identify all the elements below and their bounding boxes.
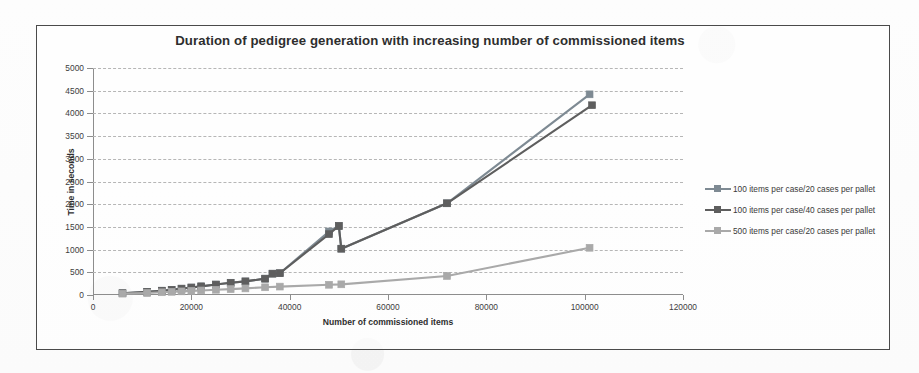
series-layer bbox=[93, 68, 683, 295]
data-point-marker bbox=[242, 278, 249, 285]
x-tick-label: 20000 bbox=[180, 302, 203, 312]
x-tick-label: 60000 bbox=[376, 302, 399, 312]
y-tick-label: 4500 bbox=[65, 86, 84, 96]
data-point-marker bbox=[335, 223, 342, 230]
data-point-marker bbox=[326, 231, 333, 238]
x-tick bbox=[191, 295, 192, 300]
legend-item-2[interactable]: 100 items per case/40 cases per pallet bbox=[705, 199, 885, 220]
series-1 bbox=[119, 91, 593, 297]
data-point-marker bbox=[262, 284, 269, 291]
legend-label: 100 items per case/20 cases per pallet bbox=[733, 184, 875, 194]
series-line bbox=[123, 105, 593, 293]
data-point-marker bbox=[589, 102, 596, 109]
legend-label: 100 items per case/40 cases per pallet bbox=[733, 205, 875, 215]
series-3 bbox=[119, 244, 593, 297]
x-tick-label: 80000 bbox=[475, 302, 498, 312]
data-point-marker bbox=[242, 285, 249, 292]
data-point-marker bbox=[227, 279, 234, 286]
x-tick-label: 40000 bbox=[278, 302, 301, 312]
data-point-marker bbox=[198, 287, 205, 294]
x-tick-label: 100000 bbox=[571, 302, 599, 312]
plot-area: 0500100015002000250030003500400045005000… bbox=[93, 68, 683, 295]
data-point-marker bbox=[276, 270, 283, 277]
x-tick bbox=[290, 295, 291, 300]
data-point-marker bbox=[444, 273, 451, 280]
data-point-marker bbox=[213, 286, 220, 293]
marker-square-icon bbox=[705, 205, 731, 215]
x-axis-title: Number of commissioned items bbox=[93, 317, 683, 327]
legend-item-1[interactable]: 100 items per case/20 cases per pallet bbox=[705, 178, 885, 199]
data-point-marker bbox=[586, 244, 593, 251]
data-point-marker bbox=[338, 245, 345, 252]
data-point-marker bbox=[119, 290, 126, 297]
x-tick-label: 120000 bbox=[669, 302, 697, 312]
x-tick bbox=[585, 295, 586, 300]
y-tick-label: 4000 bbox=[65, 108, 84, 118]
y-tick-label: 0 bbox=[79, 290, 84, 300]
data-point-marker bbox=[178, 288, 185, 295]
data-point-marker bbox=[269, 270, 276, 277]
y-axis-title: Time in seconds bbox=[66, 148, 76, 215]
legend-label: 500 items per case/20 cases per pallet bbox=[733, 226, 875, 236]
y-tick-label: 500 bbox=[70, 267, 84, 277]
x-tick bbox=[388, 295, 389, 300]
data-point-marker bbox=[444, 200, 451, 207]
data-point-marker bbox=[144, 290, 151, 297]
data-point-marker bbox=[338, 281, 345, 288]
data-point-marker bbox=[227, 286, 234, 293]
y-tick-label: 5000 bbox=[65, 63, 84, 73]
x-tick bbox=[93, 295, 94, 300]
series-2 bbox=[119, 102, 595, 297]
data-point-marker bbox=[276, 283, 283, 290]
chart-legend: 100 items per case/20 cases per pallet10… bbox=[705, 178, 885, 241]
y-tick-label: 1000 bbox=[65, 245, 84, 255]
data-point-marker bbox=[188, 288, 195, 295]
data-point-marker bbox=[168, 288, 175, 295]
x-tick-label: 0 bbox=[91, 302, 96, 312]
data-point-marker bbox=[262, 275, 269, 282]
y-tick-label: 1500 bbox=[65, 222, 84, 232]
data-point-marker bbox=[326, 281, 333, 288]
marker-square-icon bbox=[705, 184, 731, 194]
series-line bbox=[123, 94, 590, 293]
legend-item-3[interactable]: 500 items per case/20 cases per pallet bbox=[705, 220, 885, 241]
chart-title: Duration of pedigree generation with inc… bbox=[150, 33, 710, 48]
data-point-marker bbox=[586, 91, 593, 98]
data-point-marker bbox=[158, 289, 165, 296]
x-tick bbox=[486, 295, 487, 300]
y-tick-label: 3500 bbox=[65, 131, 84, 141]
x-tick bbox=[683, 295, 684, 300]
marker-square-icon bbox=[705, 226, 731, 236]
